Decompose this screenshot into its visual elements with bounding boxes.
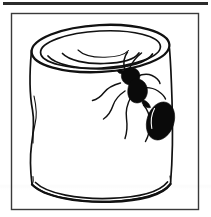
can-with-ant-illustration — [0, 0, 211, 217]
ant-thorax — [128, 79, 148, 103]
can-base-right-tick — [170, 176, 171, 185]
illustration-root — [0, 0, 211, 217]
